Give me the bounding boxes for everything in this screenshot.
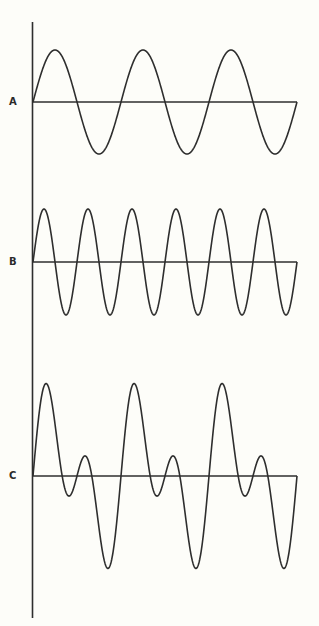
wave-label-b: B <box>9 257 17 267</box>
wave-label-a: A <box>9 97 17 107</box>
wave-label-c: C <box>9 471 16 481</box>
waves-group <box>33 50 297 568</box>
waveform-diagram <box>0 0 319 626</box>
